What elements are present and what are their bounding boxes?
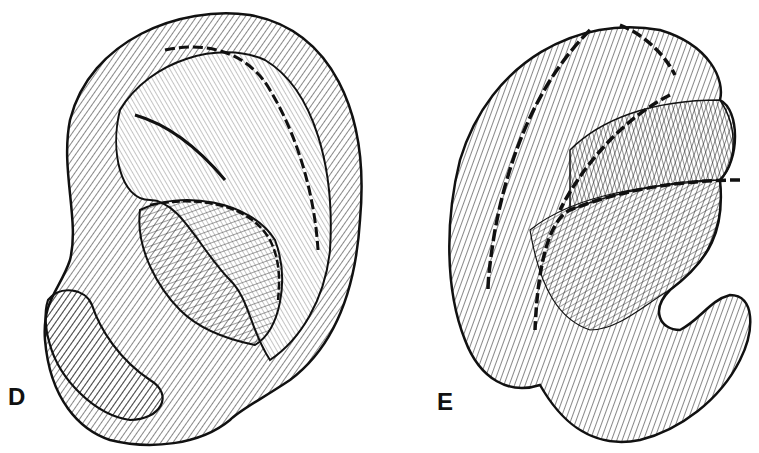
ear-illustration-d [0,0,390,453]
panel-label-e: E [437,388,453,416]
figure-panel-e: E [420,0,759,453]
panel-label-d: D [8,383,25,411]
ear-illustration-e [420,0,759,453]
figure-panel-d: D [0,0,390,453]
